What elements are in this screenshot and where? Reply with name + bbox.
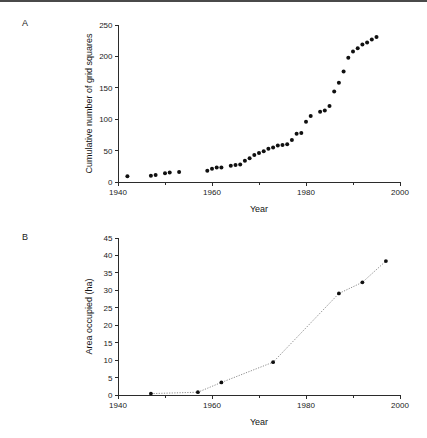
- data-point: [220, 381, 224, 385]
- y-tick-label: 100: [99, 115, 113, 124]
- y-tick-label: 150: [99, 84, 113, 93]
- data-point: [229, 164, 233, 168]
- data-point: [328, 104, 332, 108]
- data-point: [149, 392, 153, 396]
- data-point: [295, 132, 299, 136]
- x-tick-label: 2000: [391, 401, 409, 410]
- y-tick-label: 25: [104, 304, 113, 313]
- x-tick-label: 1980: [297, 188, 315, 197]
- data-point: [365, 41, 369, 45]
- data-point: [318, 110, 322, 114]
- y-tick-label: 15: [104, 339, 113, 348]
- x-tick-label: 2000: [391, 188, 409, 197]
- data-point: [248, 156, 252, 160]
- data-point: [262, 149, 266, 153]
- data-point: [196, 390, 200, 394]
- data-point: [360, 42, 364, 46]
- panel-b-plot: 0510152025303540451940196019802000YearAr…: [0, 220, 427, 438]
- data-point: [205, 169, 209, 173]
- x-tick-label: 1940: [109, 401, 127, 410]
- y-tick-label: 50: [104, 147, 113, 156]
- data-point: [304, 120, 308, 124]
- panel-b: B 0510152025303540451940196019802000Year…: [0, 220, 427, 438]
- data-point: [271, 360, 275, 364]
- data-point: [215, 166, 219, 170]
- data-point: [351, 49, 355, 53]
- y-tick-label: 35: [104, 269, 113, 278]
- data-point: [342, 69, 346, 73]
- y-tick-label: 40: [104, 251, 113, 260]
- data-point: [154, 173, 158, 177]
- data-point: [266, 147, 270, 151]
- data-point: [384, 259, 388, 263]
- data-point: [337, 81, 341, 85]
- data-point: [299, 131, 303, 135]
- data-point: [361, 280, 365, 284]
- y-tick-label: 5: [108, 374, 113, 383]
- y-tick-label: 20: [104, 321, 113, 330]
- data-point: [285, 142, 289, 146]
- data-point: [238, 162, 242, 166]
- data-point: [257, 151, 261, 155]
- data-point: [177, 170, 181, 174]
- data-point: [163, 171, 167, 175]
- y-tick-label: 45: [104, 234, 113, 243]
- y-tick-label: 250: [99, 21, 113, 30]
- data-point: [332, 90, 336, 94]
- data-point: [252, 153, 256, 157]
- y-tick-label: 0: [108, 178, 113, 187]
- figure-container: A 0501001502002501940196019802000YearCum…: [0, 0, 427, 438]
- series-connector-line: [151, 261, 386, 394]
- data-point: [337, 292, 341, 296]
- y-tick-label: 30: [104, 286, 113, 295]
- data-point: [219, 166, 223, 170]
- data-point: [125, 174, 129, 178]
- y-axis-title: Area occupied (ha): [84, 278, 94, 354]
- data-point: [281, 143, 285, 147]
- x-axis-title: Year: [250, 204, 268, 214]
- data-point: [375, 35, 379, 39]
- y-axis-title: Cumulative number of grid squares: [84, 33, 94, 174]
- y-tick-label: 10: [104, 356, 113, 365]
- data-point: [276, 144, 280, 148]
- data-point: [290, 138, 294, 142]
- x-axis-title: Year: [250, 417, 268, 427]
- data-point: [370, 37, 374, 41]
- data-point: [309, 114, 313, 118]
- data-point: [271, 145, 275, 149]
- panel-a: A 0501001502002501940196019802000YearCum…: [0, 0, 427, 220]
- x-tick-label: 1960: [203, 401, 221, 410]
- data-point: [243, 159, 247, 163]
- panel-a-plot: 0501001502002501940196019802000YearCumul…: [0, 0, 427, 220]
- x-tick-label: 1940: [109, 188, 127, 197]
- y-tick-label: 0: [108, 391, 113, 400]
- data-point: [346, 56, 350, 60]
- data-point: [168, 171, 172, 175]
- x-tick-label: 1980: [297, 401, 315, 410]
- y-tick-label: 200: [99, 52, 113, 61]
- x-tick-label: 1960: [203, 188, 221, 197]
- data-point: [323, 108, 327, 112]
- data-point: [210, 167, 214, 171]
- data-point: [234, 163, 238, 167]
- data-point: [356, 46, 360, 50]
- data-point: [149, 174, 153, 178]
